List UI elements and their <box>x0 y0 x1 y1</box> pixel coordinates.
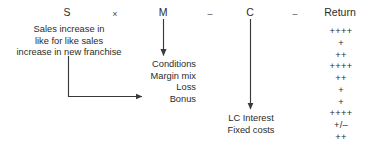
operator-minus-icon-2: – <box>292 8 297 20</box>
return-rating-item: ++ <box>330 73 353 85</box>
margin-driver-line: Bonus <box>151 94 196 106</box>
margin-driver-line: Margin mix <box>151 71 196 83</box>
term-header-margin: M <box>159 6 168 18</box>
sales-to-bonus-elbow-arrow <box>69 56 143 97</box>
sales-drivers-block: Sales increase in like for like sales in… <box>17 24 122 59</box>
sales-driver-line: increase in new franchise <box>17 47 122 59</box>
formula-diagram: S × M – C – Return Sales increase in lik… <box>0 0 371 150</box>
term-header-costs: C <box>246 6 254 18</box>
return-rating-item: + <box>330 97 353 109</box>
return-rating-item: + <box>330 85 353 97</box>
return-rating-item: + <box>330 38 353 50</box>
margin-driver-line: Conditions <box>151 59 196 71</box>
sales-driver-line: Sales increase in <box>17 24 122 36</box>
cost-driver-line: LC Interest <box>227 113 274 125</box>
return-rating-item: ++++ <box>330 61 353 73</box>
sales-driver-line: like for like sales <box>17 36 122 48</box>
return-rating-item: ++ <box>330 132 353 144</box>
term-header-sales: S <box>63 6 70 18</box>
return-rating-column: ++++ + ++ ++++ ++ + + ++++ +/– ++ <box>330 26 353 144</box>
return-rating-item: ++++ <box>330 26 353 38</box>
margin-drivers-block: Conditions Margin mix Loss Bonus <box>151 59 196 105</box>
margin-driver-line: Loss <box>151 82 196 94</box>
operator-minus-icon-1: – <box>207 8 212 20</box>
cost-drivers-block: LC Interest Fixed costs <box>227 113 274 136</box>
return-rating-item: ++ <box>330 50 353 62</box>
return-rating-item: +/– <box>330 120 353 132</box>
term-header-return: Return <box>324 6 356 18</box>
return-rating-item: ++++ <box>330 108 353 120</box>
operator-multiply-icon: × <box>112 8 117 20</box>
cost-driver-line: Fixed costs <box>227 125 274 137</box>
